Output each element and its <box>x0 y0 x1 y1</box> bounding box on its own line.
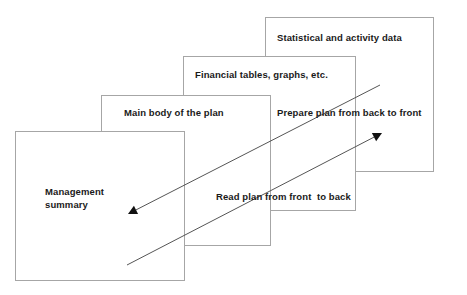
card-label-statistical-and-activity-data: Statistical and activity data <box>277 31 402 44</box>
card-label-main-body-of-the-plan: Main body of the plan <box>124 106 224 119</box>
card-label-management-summary: Management summary <box>45 185 104 211</box>
card-label-financial-tables-graphs: Financial tables, graphs, etc. <box>195 68 328 81</box>
arrow-label-prepare-back-to-front: Prepare plan from back to front <box>277 106 422 119</box>
arrow-label-read-front-to-back: Read plan from front to back <box>216 190 351 203</box>
diagram-canvas: Read plan from front to back Prepare pla… <box>0 0 467 295</box>
